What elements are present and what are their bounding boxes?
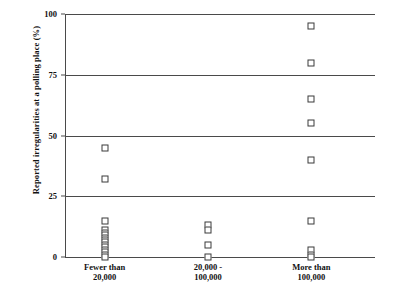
x-axis-label-0: Fewer than20,000 [50,262,160,282]
gridline-25 [65,196,375,197]
y-tick-label-25: 25 [23,191,57,201]
x-axis-label-line2: 20,000 [50,272,160,282]
data-point [101,144,108,151]
data-point [101,176,108,183]
data-point [205,241,212,248]
x-axis-label-line1: More than [256,262,366,272]
x-axis-label-1: 20,000 -100,000 [153,262,263,282]
data-point [308,23,315,30]
data-point [101,217,108,224]
data-point [205,254,212,261]
data-point [101,254,108,261]
gridline-0 [65,257,375,258]
y-tick-label-0: 0 [23,252,57,262]
data-point [205,227,212,234]
x-axis-label-2: More than100,000 [256,262,366,282]
data-point [308,156,315,163]
gridline-50 [65,136,375,137]
y-tick-label-100: 100 [23,9,57,19]
data-point [308,254,315,261]
x-axis-label-line2: 100,000 [153,272,263,282]
x-axis-label-line1: 20,000 - [153,262,263,272]
x-axis-labels: Fewer than20,00020,000 -100,000More than… [65,262,375,290]
data-point [308,96,315,103]
x-axis-label-line2: 100,000 [256,272,366,282]
y-axis-ticks: 0255075100 [26,14,65,257]
scatter-chart: Reported irregularities at a polling pla… [0,0,411,293]
gridline-75 [65,75,375,76]
y-tick-label-50: 50 [23,131,57,141]
data-point [308,217,315,224]
data-point [308,120,315,127]
gridline-100 [65,14,375,15]
y-tick-label-75: 75 [23,70,57,80]
data-point [308,59,315,66]
x-axis-label-line1: Fewer than [50,262,160,272]
plot-area [65,14,375,257]
